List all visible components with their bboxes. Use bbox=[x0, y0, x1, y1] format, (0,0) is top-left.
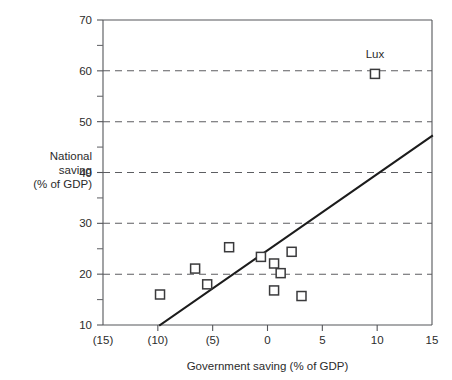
x-tick-label--5: (5) bbox=[206, 334, 220, 346]
data-point-marker bbox=[156, 290, 165, 299]
y-tick-label-10: 10 bbox=[79, 319, 92, 331]
trend-line bbox=[160, 136, 432, 325]
regression-line bbox=[160, 136, 432, 325]
y-tick-label-60: 60 bbox=[79, 65, 92, 77]
x-tick-label--15: (15) bbox=[93, 334, 114, 346]
y-tick-label-50: 50 bbox=[79, 116, 92, 128]
data-points bbox=[156, 69, 380, 300]
data-point-marker bbox=[270, 259, 279, 268]
x-tick-label-10: 10 bbox=[371, 334, 384, 346]
annotation-lux: Lux bbox=[366, 48, 385, 60]
axis-tick-labels: 10203040506070(15)(10)(5)051015 bbox=[79, 14, 438, 346]
x-tick-label-0: 0 bbox=[264, 334, 270, 346]
y-axis-title-line-1: National bbox=[50, 150, 92, 162]
y-tick-label-20: 20 bbox=[79, 268, 92, 280]
data-point-marker bbox=[370, 69, 379, 78]
y-tick-label-30: 30 bbox=[79, 217, 92, 229]
gridlines bbox=[103, 71, 432, 274]
y-axis-title-line-2: saving bbox=[59, 164, 92, 176]
axis-titles: Government saving (% of GDP)Nationalsavi… bbox=[33, 150, 348, 372]
y-tick-label-70: 70 bbox=[79, 14, 92, 26]
x-tick-label-15: 15 bbox=[426, 334, 439, 346]
y-axis-title-line-3: (% of GDP) bbox=[33, 178, 92, 190]
data-point-marker bbox=[256, 252, 265, 261]
data-point-marker bbox=[276, 269, 285, 278]
data-point-marker bbox=[203, 280, 212, 289]
data-point-marker bbox=[287, 247, 296, 256]
x-axis-title: Government saving (% of GDP) bbox=[187, 360, 349, 372]
data-point-marker bbox=[225, 243, 234, 252]
point-annotations: Lux bbox=[366, 48, 385, 60]
x-tick-label--10: (10) bbox=[148, 334, 169, 346]
data-point-marker bbox=[297, 292, 306, 301]
axis-ticks bbox=[97, 20, 377, 331]
chart-canvas: 10203040506070(15)(10)(5)051015 Lux Gove… bbox=[0, 0, 452, 380]
data-point-marker bbox=[270, 286, 279, 295]
data-point-marker bbox=[191, 264, 200, 273]
scatter-chart: 10203040506070(15)(10)(5)051015 Lux Gove… bbox=[0, 0, 452, 380]
x-tick-label-5: 5 bbox=[319, 334, 325, 346]
